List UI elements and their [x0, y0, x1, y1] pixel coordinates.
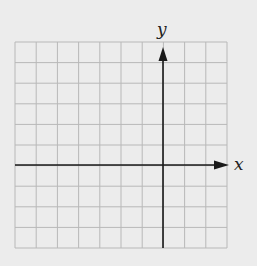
- y-axis-label: y: [156, 19, 167, 39]
- x-axis-label: x: [234, 154, 244, 174]
- grid-lines: [15, 42, 227, 248]
- x-axis: [15, 161, 229, 170]
- y-axis: [159, 47, 168, 248]
- y-axis-arrow-icon: [159, 47, 168, 61]
- coordinate-plane: x y: [0, 0, 257, 266]
